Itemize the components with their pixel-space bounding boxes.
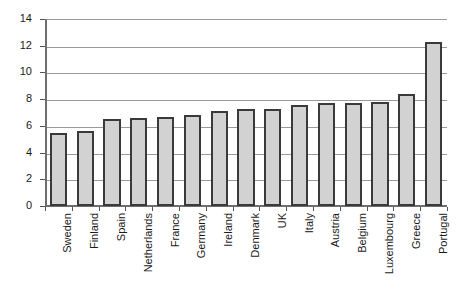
x-axis-tick-mark: [72, 207, 73, 211]
x-axis-tick-mark: [45, 207, 46, 211]
x-axis-tick-mark: [99, 207, 100, 211]
x-axis-category-label: Spain: [116, 213, 127, 241]
x-axis-labels: SwedenFinlandSpainNetherlandsFranceGerma…: [45, 213, 447, 291]
x-axis-category-label: Germany: [196, 213, 207, 258]
x-axis-category-label: Portugal: [438, 213, 449, 254]
x-axis-category-label: Netherlands: [143, 213, 154, 272]
bar: [291, 105, 308, 207]
x-axis-tick-mark: [340, 207, 341, 211]
x-axis-tick-mark: [206, 207, 207, 211]
bar: [157, 117, 174, 206]
x-axis-category-label: Italy: [304, 213, 315, 233]
x-axis-category-label: Ireland: [223, 213, 234, 247]
x-axis-category-label: Luxembourg: [384, 213, 395, 274]
x-axis-tick-mark: [313, 207, 314, 211]
y-axis-tick-label: 6: [26, 120, 32, 131]
x-axis-category-label: Sweden: [62, 213, 73, 253]
bar: [371, 102, 388, 206]
y-axis-tick-label: 8: [26, 93, 32, 104]
bar-chart: 02468101214 SwedenFinlandSpainNetherland…: [0, 0, 463, 291]
x-axis-category-label: Belgium: [357, 213, 368, 253]
bar: [237, 109, 254, 207]
y-axis-tick-label: 10: [20, 66, 32, 77]
bar: [103, 119, 120, 206]
bar: [50, 133, 67, 206]
bars-layer: [45, 19, 447, 206]
bar: [211, 111, 228, 206]
bar: [398, 94, 415, 206]
bar: [345, 103, 362, 206]
x-axis-tick-mark: [447, 207, 448, 211]
bar: [77, 131, 94, 206]
x-axis-category-label: Greece: [411, 213, 422, 249]
x-axis-tick-mark: [420, 207, 421, 211]
bar: [264, 109, 281, 207]
x-axis-tick-mark: [233, 207, 234, 211]
x-axis-ticks: [45, 207, 447, 212]
x-axis-tick-mark: [125, 207, 126, 211]
x-axis-category-label: France: [170, 213, 181, 247]
bar: [425, 42, 442, 206]
y-axis-tick-label: 12: [20, 40, 32, 51]
x-axis-tick-mark: [259, 207, 260, 211]
x-axis-tick-mark: [286, 207, 287, 211]
x-axis-tick-mark: [152, 207, 153, 211]
x-axis-category-label: UK: [277, 213, 288, 228]
y-axis-tick-label: 4: [26, 147, 32, 158]
x-axis-tick-mark: [367, 207, 368, 211]
y-axis: 02468101214: [0, 0, 38, 291]
x-axis-tick-mark: [179, 207, 180, 211]
bar: [318, 103, 335, 206]
y-axis-tick-label: 0: [26, 200, 32, 211]
y-axis-tick-label: 14: [20, 13, 32, 24]
bar: [130, 118, 147, 206]
x-axis-category-label: Denmark: [250, 213, 261, 258]
x-axis-category-label: Finland: [89, 213, 100, 249]
x-axis-tick-mark: [393, 207, 394, 211]
x-axis-category-label: Austria: [330, 213, 341, 247]
bar: [184, 115, 201, 206]
y-axis-tick-label: 2: [26, 173, 32, 184]
